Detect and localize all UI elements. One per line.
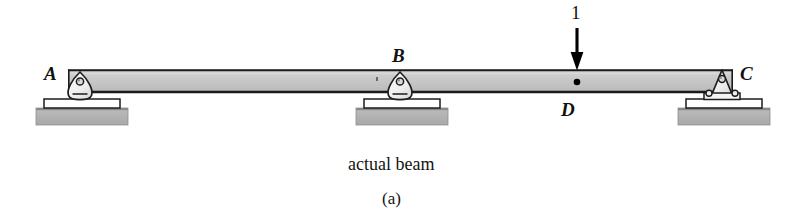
label-support-a: A <box>44 64 57 83</box>
figure-subcaption: (a) <box>382 190 401 207</box>
label-support-c: C <box>740 64 753 83</box>
label-support-b: B <box>392 46 405 65</box>
label-point-d: D <box>561 100 575 119</box>
ground-block-c <box>678 108 770 125</box>
label-load-magnitude: 1 <box>571 3 581 22</box>
ground-block-b <box>356 108 448 125</box>
figure-caption: actual beam <box>348 155 434 173</box>
load-arrow <box>571 28 584 71</box>
base-plate-c <box>686 99 762 108</box>
ground-block-a <box>36 108 128 125</box>
beam-diagram-svg <box>0 0 788 217</box>
figure-canvas: A B C D 1 actual beam (a) <box>0 0 788 217</box>
point-d-marker <box>574 79 581 86</box>
